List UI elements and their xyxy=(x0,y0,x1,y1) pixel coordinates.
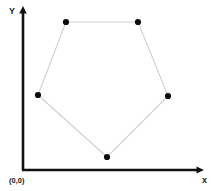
pentagon-vertex-bottom xyxy=(104,154,110,160)
pentagon-shape xyxy=(38,22,168,157)
pentagon-vertex-top-right xyxy=(135,19,141,25)
origin-label: (0,0) xyxy=(9,176,25,185)
x-axis-arrow-icon xyxy=(197,166,205,173)
figure-canvas: Y x (0,0) xyxy=(0,0,214,191)
pentagon-vertex-right xyxy=(165,93,171,99)
geometry-figure: Y x (0,0) xyxy=(0,0,214,191)
pentagon-vertex-left xyxy=(35,92,41,98)
y-axis-arrow-icon xyxy=(19,6,27,14)
x-axis-label: x xyxy=(202,175,207,185)
pentagon-vertex-top-left xyxy=(63,19,69,25)
y-axis-label: Y xyxy=(9,6,15,16)
